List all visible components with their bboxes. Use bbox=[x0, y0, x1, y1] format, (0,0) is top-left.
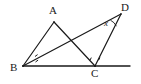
segment-ac bbox=[54, 22, 95, 66]
angle-label-x: x bbox=[104, 19, 108, 28]
angle-tick-b-lower bbox=[36, 60, 39, 62]
vertex-label-c: C bbox=[91, 68, 98, 79]
angle-tick-b-upper bbox=[35, 55, 38, 57]
vertex-dot-d bbox=[120, 13, 121, 14]
segment-ab bbox=[23, 22, 54, 66]
vertex-label-d: D bbox=[121, 2, 129, 13]
vertex-dot-b bbox=[22, 65, 24, 67]
vertex-label-b: B bbox=[10, 62, 17, 73]
segment-dc bbox=[95, 14, 121, 66]
angle-arc-at-d bbox=[111, 20, 117, 26]
vertex-dot-a bbox=[53, 21, 54, 22]
geometry-figure: A D B C x bbox=[0, 0, 141, 84]
geometry-canvas bbox=[0, 0, 141, 84]
vertex-label-a: A bbox=[49, 5, 57, 16]
angle-tick-c-left bbox=[90, 58, 91, 61]
